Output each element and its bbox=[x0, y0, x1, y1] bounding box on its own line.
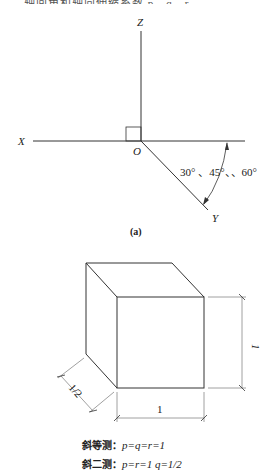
right-angle-marker bbox=[126, 127, 141, 141]
formula-expr: p=r=1 q=1/2 bbox=[122, 458, 182, 470]
angle-label: 30° 、45°、、60° bbox=[180, 166, 257, 178]
height-dimension-label: 1 bbox=[250, 344, 262, 350]
cube-front-face bbox=[117, 297, 204, 388]
dimension-labels: 1 1 1/2 bbox=[67, 344, 262, 415]
width-dimension-label: 1 bbox=[157, 403, 163, 415]
cube bbox=[86, 263, 204, 388]
formula-cavalier: 斜等测：p=q=r=1 bbox=[82, 437, 165, 452]
cube-side-face bbox=[86, 263, 117, 388]
formula-name: 斜二测： bbox=[82, 459, 122, 470]
y-label: Y bbox=[212, 212, 220, 224]
formula-name: 斜等测： bbox=[82, 440, 122, 451]
axes-figure bbox=[33, 31, 245, 210]
formula-expr: p=q=r=1 bbox=[122, 439, 165, 451]
x-label: X bbox=[17, 135, 26, 147]
dimensions bbox=[57, 294, 246, 422]
z-label: Z bbox=[137, 16, 144, 28]
cube-top-face bbox=[86, 263, 204, 297]
arc-arrow-top bbox=[225, 142, 229, 150]
formula-cabinet: 斜二测：p=r=1 q=1/2 bbox=[82, 456, 182, 470]
origin-label: O bbox=[133, 145, 141, 157]
figure-a-caption: (a) bbox=[130, 226, 142, 238]
oblique-projection-diagram: Z X O Y 30° 、45°、、60° (a) 1 1 1/2 bbox=[0, 0, 274, 470]
depth-dimension-label: 1/2 bbox=[67, 381, 85, 399]
